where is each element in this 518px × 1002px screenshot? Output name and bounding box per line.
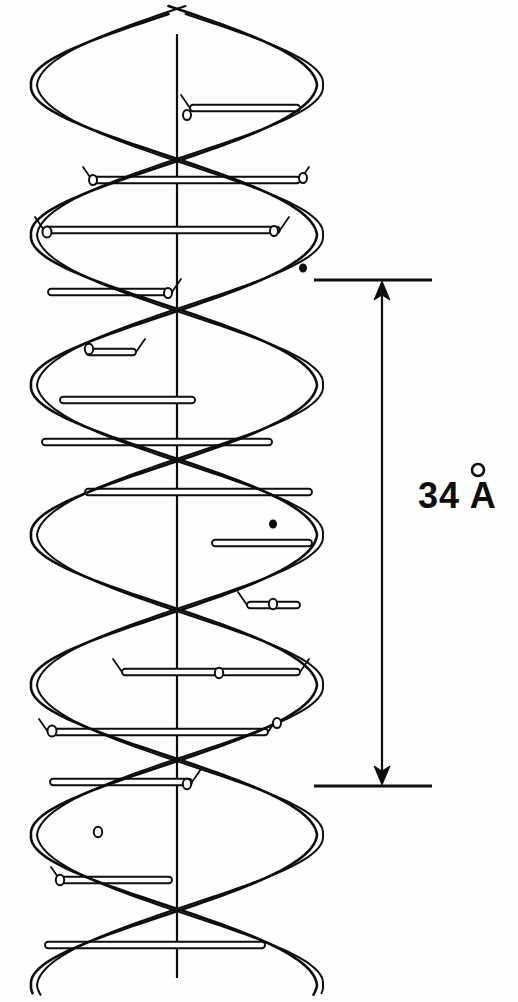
rung-connector [238, 592, 247, 605]
rung-connector [136, 339, 145, 352]
phosphate-node [273, 718, 281, 728]
phosphate-node [270, 520, 276, 528]
phosphate-node [43, 227, 52, 238]
phosphate-node [270, 226, 278, 236]
base-pair-rung-bar [48, 729, 268, 736]
base-pair-rung-bar [48, 289, 172, 296]
base-pair-rung [190, 105, 300, 112]
base-pair-rung-bar [122, 669, 300, 676]
dna-helix-illustration: 34 A [0, 0, 518, 1002]
base-pair-rung [48, 289, 172, 296]
base-pair-rung [122, 669, 300, 676]
base-pair-rung [85, 489, 312, 496]
base-pair-rung-bar [44, 227, 280, 234]
phosphate-node [56, 875, 64, 885]
base-pair-rung [48, 729, 268, 736]
base-pair-rung-bar [85, 489, 312, 496]
phosphate-node [164, 288, 172, 298]
base-pair-rung-bar [212, 540, 312, 547]
rung-connector [192, 769, 201, 782]
base-pair-rung-bar [190, 105, 300, 112]
rung-connector [181, 95, 190, 108]
base-pair-rung [212, 540, 312, 547]
rung-connector [113, 659, 122, 672]
phosphate-node [269, 599, 277, 609]
phosphate-node [89, 175, 97, 185]
phosphate-node [48, 726, 57, 737]
phosphate-node [85, 344, 93, 354]
backbone-strand-front-edge-left [31, 6, 317, 995]
phosphate-node [94, 827, 102, 837]
phosphate-node [215, 668, 223, 678]
base-pair-rung [44, 227, 280, 234]
base-pair-rung-bar [60, 877, 172, 884]
base-pair-rung [60, 397, 195, 404]
phosphate-node [183, 779, 191, 789]
phosphate-node [300, 264, 306, 272]
dna-figure: 34 A [0, 0, 518, 1002]
rung-connector [280, 217, 289, 230]
base-pair-rung-bar [60, 397, 195, 404]
base-pair-rung [60, 877, 172, 884]
phosphate-node [183, 110, 191, 120]
pitch-dimension-label: 34 A [418, 475, 497, 516]
pitch-dimension-annotation [314, 280, 432, 786]
phosphate-node [299, 173, 307, 183]
